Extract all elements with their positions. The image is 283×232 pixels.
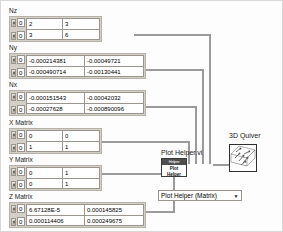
table-row[interactable]: 1 1 [27,141,99,151]
array-cell-x-matrix-1-0[interactable]: 1 [27,141,63,151]
spinner-icon[interactable] [11,181,16,189]
index-value-ny-row1[interactable]: 0 [17,68,25,77]
array-grid-y-matrix[interactable]: 0 1 0 1 [26,167,100,189]
array-cell-y-matrix-0-1[interactable]: 1 [63,168,99,178]
array-cell-ny-1-0[interactable]: -0.000490714 [27,66,85,76]
index-column-y-matrix[interactable]: 0 0 [11,167,26,189]
array-cell-ny-1-1[interactable]: -0.00130441 [85,66,143,76]
spinner-icon[interactable] [11,205,16,213]
array-cell-ny-0-0[interactable]: -0.000214381 [27,56,85,66]
quiver-node[interactable] [229,144,257,172]
array-cell-nz-0-1[interactable]: 3 [63,19,99,29]
index-value-z-matrix-row0[interactable]: 0 [17,204,25,213]
index-value-nz-row0[interactable]: 0 [17,18,25,27]
array-grid-nz[interactable]: 2 3 3 6 [26,18,100,40]
array-cell-nz-1-1[interactable]: 6 [63,29,99,39]
index-cell-nz-row1[interactable]: 0 [11,31,25,40]
spinner-icon[interactable] [11,56,16,64]
array-body-z-matrix[interactable]: 0 0 6.67128E-5 0.000145825 0.000114406 0… [9,202,146,228]
array-grid-z-matrix[interactable]: 6.67128E-5 0.000145825 0.000114406 0.000… [26,204,144,226]
index-cell-nx-row1[interactable]: 0 [11,105,25,114]
index-cell-ny-row1[interactable]: 0 [11,68,25,77]
index-column-ny[interactable]: 0 0 [11,55,26,77]
table-row[interactable]: 0.000114406 0.000249675 [27,215,143,225]
array-block-nz[interactable]: Nz 0 0 2 3 3 6 [9,7,102,42]
array-cell-x-matrix-1-1[interactable]: 1 [63,141,99,151]
index-column-nx[interactable]: 0 0 [11,92,26,114]
array-cell-nx-0-1[interactable]: -0.00042032 [85,93,143,103]
index-cell-z-matrix-row1[interactable]: 0 [11,217,25,226]
array-grid-nx[interactable]: -0.000151543 -0.00042032 -0.00027628 -0.… [26,92,144,114]
array-body-ny[interactable]: 0 0 -0.000214381 -0.00049721 -0.00049071… [9,53,146,79]
index-column-nz[interactable]: 0 0 [11,18,26,40]
index-cell-x-matrix-row0[interactable]: 0 [11,130,25,139]
table-row[interactable]: -0.000151543 -0.00042032 [27,93,143,103]
spinner-icon[interactable] [11,106,16,114]
array-cell-nx-1-1[interactable]: -0.000890096 [85,103,143,113]
array-block-nx[interactable]: Nx 0 0 -0.000151543 -0.00042032 -0.0002 [9,81,146,116]
table-row[interactable]: 0 1 [27,178,99,188]
spinner-icon[interactable] [11,144,16,152]
index-value-nx-row0[interactable]: 0 [17,92,25,101]
array-cell-y-matrix-0-0[interactable]: 0 [27,168,63,178]
array-cell-z-matrix-0-1[interactable]: 0.000145825 [85,205,143,215]
index-value-z-matrix-row1[interactable]: 0 [17,217,25,226]
index-cell-nx-row0[interactable]: 0 [11,92,25,101]
table-row[interactable]: 0 0 [27,131,99,141]
spinner-icon[interactable] [11,93,16,101]
spinner-icon[interactable] [11,32,16,40]
array-body-x-matrix[interactable]: 0 0 0 0 1 1 [9,128,102,154]
array-grid-ny[interactable]: -0.000214381 -0.00049721 -0.000490714 -0… [26,55,144,77]
table-row[interactable]: 2 3 [27,19,99,29]
array-block-z-matrix[interactable]: Z Matrix 0 0 6.67128E-5 0.000145825 0.0 [9,193,146,228]
index-value-nz-row1[interactable]: 0 [17,31,25,40]
block-diagram-canvas[interactable]: Nz 0 0 2 3 3 6 [0,0,283,232]
index-column-x-matrix[interactable]: 0 0 [11,130,26,152]
plot-helper-selector[interactable]: Plot Helper (Matrix) ▼ [158,190,242,201]
array-body-nz[interactable]: 0 0 2 3 3 6 [9,16,102,42]
array-block-ny[interactable]: Ny 0 0 -0.000214381 -0.00049721 -0.0004 [9,44,146,79]
spinner-icon[interactable] [11,69,16,77]
plot-helper-node[interactable]: Helper Plot Helper [161,158,187,177]
array-cell-x-matrix-0-1[interactable]: 0 [63,131,99,141]
table-row[interactable]: 3 6 [27,29,99,39]
index-cell-x-matrix-row1[interactable]: 0 [11,143,25,152]
array-cell-z-matrix-0-0[interactable]: 6.67128E-5 [27,205,85,215]
array-cell-z-matrix-1-0[interactable]: 0.000114406 [27,215,85,225]
array-cell-nz-1-0[interactable]: 3 [27,29,63,39]
array-cell-nx-0-0[interactable]: -0.000151543 [27,93,85,103]
array-block-y-matrix[interactable]: Y Matrix 0 0 0 1 0 1 [9,156,102,191]
array-cell-z-matrix-1-1[interactable]: 0.000249675 [85,215,143,225]
table-row[interactable]: -0.000214381 -0.00049721 [27,56,143,66]
index-cell-nz-row0[interactable]: 0 [11,18,25,27]
array-grid-x-matrix[interactable]: 0 0 1 1 [26,130,100,152]
index-value-y-matrix-row1[interactable]: 0 [17,180,25,189]
index-cell-z-matrix-row0[interactable]: 0 [11,204,25,213]
array-cell-y-matrix-1-1[interactable]: 1 [63,178,99,188]
array-cell-x-matrix-0-0[interactable]: 0 [27,131,63,141]
table-row[interactable]: 6.67128E-5 0.000145825 [27,205,143,215]
spinner-icon[interactable] [11,218,16,226]
index-value-nx-row1[interactable]: 0 [17,105,25,114]
index-value-ny-row0[interactable]: 0 [17,55,25,64]
index-cell-ny-row0[interactable]: 0 [11,55,25,64]
index-cell-y-matrix-row1[interactable]: 0 [11,180,25,189]
index-column-z-matrix[interactable]: 0 0 [11,204,26,226]
array-cell-nx-1-0[interactable]: -0.00027628 [27,103,85,113]
index-cell-y-matrix-row0[interactable]: 0 [11,167,25,176]
table-row[interactable]: -0.000490714 -0.00130441 [27,66,143,76]
chevron-down-icon[interactable]: ▼ [232,191,240,201]
table-row[interactable]: -0.00027628 -0.000890096 [27,103,143,113]
array-cell-y-matrix-1-0[interactable]: 0 [27,178,63,188]
array-body-nx[interactable]: 0 0 -0.000151543 -0.00042032 -0.00027628… [9,90,146,116]
spinner-icon[interactable] [11,19,16,27]
array-block-x-matrix[interactable]: X Matrix 0 0 0 0 1 1 [9,119,102,154]
table-row[interactable]: 0 1 [27,168,99,178]
index-value-x-matrix-row0[interactable]: 0 [17,130,25,139]
array-cell-nz-0-0[interactable]: 2 [27,19,63,29]
index-value-y-matrix-row0[interactable]: 0 [17,167,25,176]
array-cell-ny-0-1[interactable]: -0.00049721 [85,56,143,66]
spinner-icon[interactable] [11,131,16,139]
index-value-x-matrix-row1[interactable]: 0 [17,143,25,152]
array-body-y-matrix[interactable]: 0 0 0 1 0 1 [9,165,102,191]
